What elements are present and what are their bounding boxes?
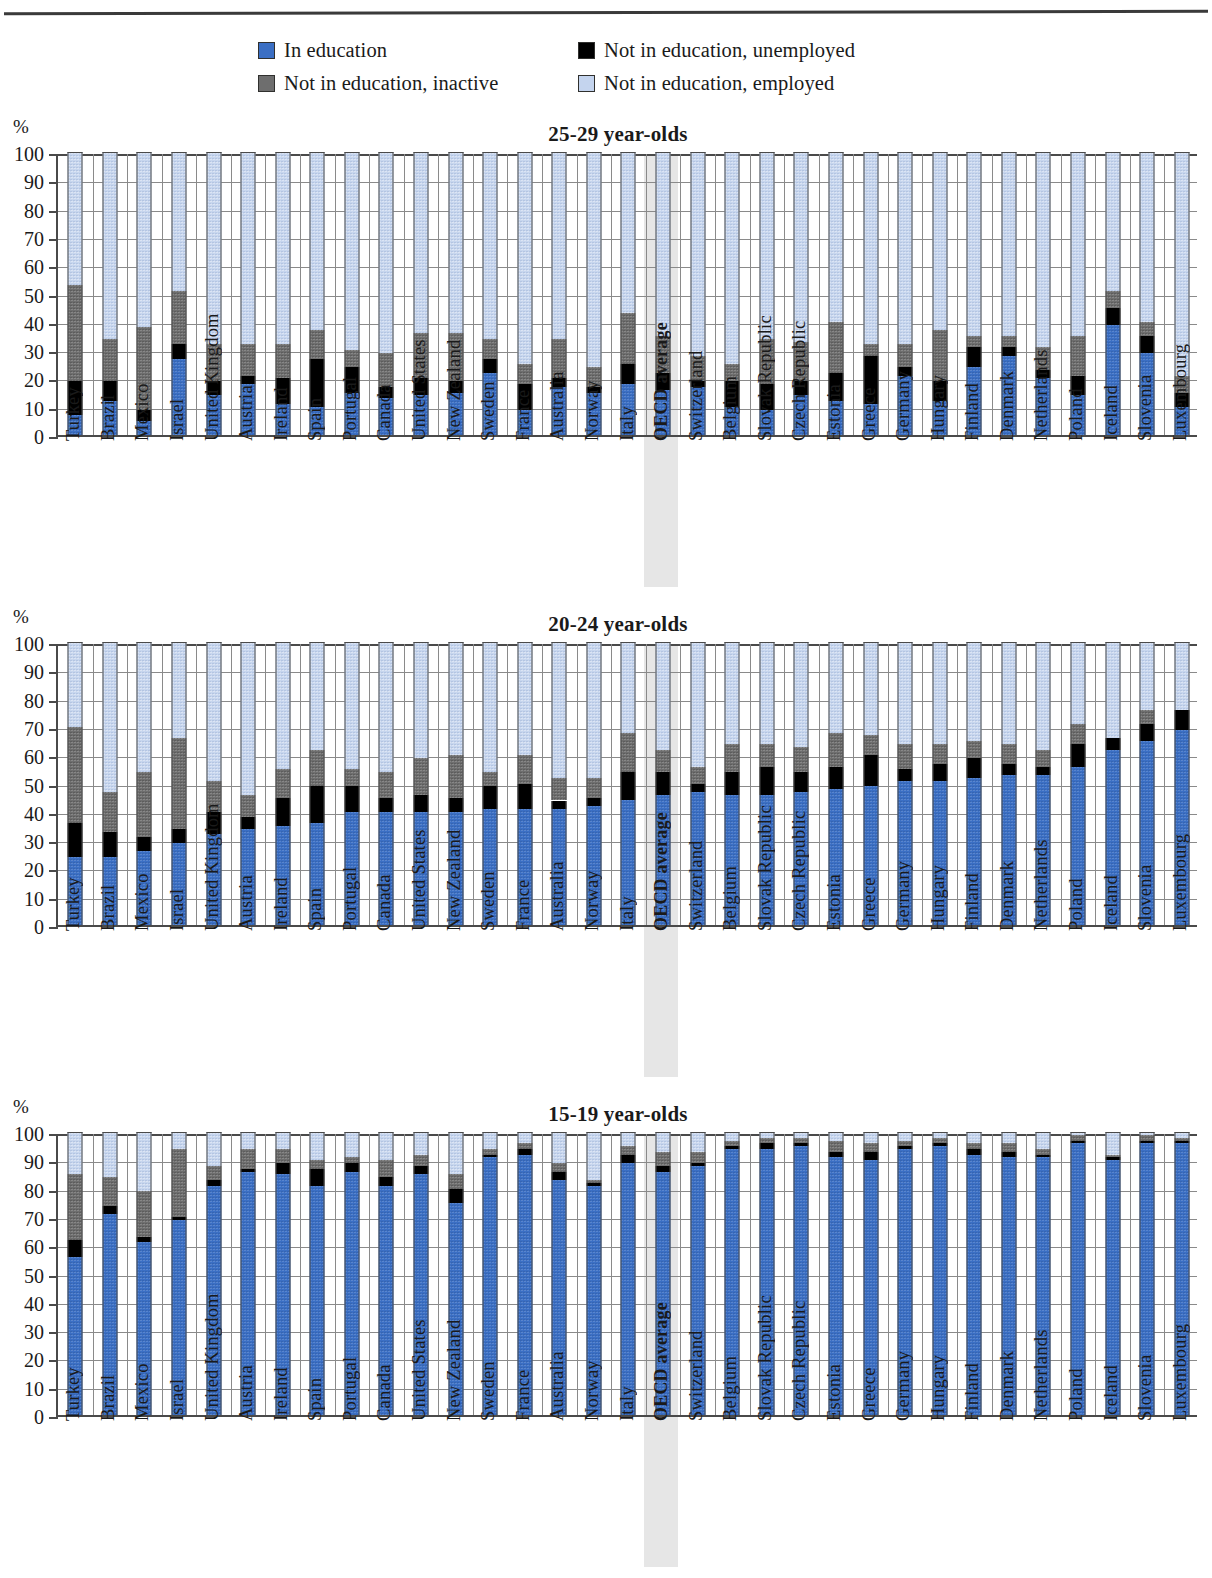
x-axis-tick-label-turkey: Turkey: [63, 1367, 84, 1421]
x-axis-tick-label-switzerland: Switzerland: [686, 350, 707, 441]
segment-inactive: [552, 778, 567, 801]
segment-employed: [344, 1132, 359, 1157]
chart-panel-20-24: %20-24 year-olds1009080706050403020100Tu…: [0, 604, 1212, 1084]
x-axis-tick-label-united-kingdom: United Kingdom: [202, 1293, 223, 1421]
stacked-bar[interactable]: [310, 154, 325, 435]
segment-employed: [621, 642, 636, 733]
segment-employed: [552, 152, 567, 339]
segment-employed: [932, 1132, 947, 1138]
segment-inactive: [863, 344, 878, 355]
segment-inactive: [1036, 750, 1051, 767]
segment-inactive: [172, 291, 187, 345]
segment-employed: [621, 1132, 636, 1146]
segment-inactive: [102, 792, 117, 832]
segment-employed: [1001, 152, 1016, 336]
segment-inactive: [621, 733, 636, 773]
chart-title: 20-24 year-olds: [0, 612, 1212, 637]
x-axis-tick-label-austria: Austria: [236, 1365, 257, 1421]
bar-slot[interactable]: [93, 644, 128, 925]
segment-unemployed: [759, 767, 774, 795]
y-axis-tick-label: 20: [24, 1349, 44, 1372]
chart-title-text: 25-29 year-olds: [548, 122, 687, 146]
bar-slot[interactable]: [611, 154, 646, 435]
segment-employed: [552, 642, 567, 778]
plot-area: [56, 154, 1197, 437]
segment-inactive: [275, 1149, 290, 1163]
x-axis-tick-label-finland: Finland: [962, 383, 983, 441]
bar-slot[interactable]: [300, 644, 335, 925]
segment-inactive: [483, 772, 498, 786]
x-axis-tick-label-france: France: [513, 1369, 534, 1421]
y-axis-tick-mark: [49, 701, 58, 703]
x-axis-tick-label-israel: Israel: [167, 399, 188, 441]
segment-employed: [483, 152, 498, 339]
x-axis-tick-label-united-kingdom: United Kingdom: [202, 803, 223, 931]
bar-slot[interactable]: [300, 1134, 335, 1415]
segment-employed: [759, 152, 774, 339]
bar-slot[interactable]: [162, 154, 197, 435]
segment-unemployed: [1001, 1152, 1016, 1158]
segment-inactive: [448, 1174, 463, 1188]
y-axis-tick-label: 50: [24, 774, 44, 797]
stacked-bar[interactable]: [621, 154, 636, 435]
stacked-bar[interactable]: [172, 1134, 187, 1415]
x-axis-tick-label-poland: Poland: [1066, 388, 1087, 441]
stacked-bar[interactable]: [621, 1134, 636, 1415]
x-axis-tick-label-norway: Norway: [582, 1360, 603, 1421]
bar-slot[interactable]: [162, 1134, 197, 1415]
segment-unemployed: [828, 1152, 843, 1158]
segment-employed: [102, 1132, 117, 1177]
segment-unemployed: [794, 1143, 809, 1146]
segment-inactive: [759, 744, 774, 767]
segment-employed: [690, 1132, 705, 1152]
y-axis-tick-label: 30: [24, 341, 44, 364]
bar-slot[interactable]: [611, 1134, 646, 1415]
x-axis-tick-label-portugal: Portugal: [340, 377, 361, 441]
bar-slot[interactable]: [93, 154, 128, 435]
y-axis-tick-label: 20: [24, 859, 44, 882]
bar-slot[interactable]: [300, 154, 335, 435]
stacked-bar[interactable]: [102, 1134, 117, 1415]
segment-unemployed: [552, 801, 567, 809]
x-axis-tick-label-canada: Canada: [374, 874, 395, 931]
segment-unemployed: [517, 784, 532, 809]
segment-employed: [102, 642, 117, 792]
segment-employed: [828, 152, 843, 322]
x-axis-tick-label-iceland: Iceland: [1101, 875, 1122, 931]
bar-slot[interactable]: [162, 644, 197, 925]
segment-inactive: [898, 344, 913, 367]
stacked-bar[interactable]: [102, 154, 117, 435]
stacked-bar[interactable]: [102, 644, 117, 925]
y-axis-tick-label: 60: [24, 1236, 44, 1259]
y-axis-tick-label: 60: [24, 256, 44, 279]
square-swatch-gray-icon: [258, 75, 275, 92]
segment-employed: [310, 152, 325, 330]
segment-unemployed: [863, 755, 878, 786]
segment-inactive: [586, 778, 601, 798]
x-axis-tick-label-iceland: Iceland: [1101, 1365, 1122, 1421]
y-axis-tick-mark: [49, 1360, 58, 1362]
segment-unemployed: [725, 772, 740, 795]
segment-employed: [967, 152, 982, 336]
bar-slot[interactable]: [93, 1134, 128, 1415]
segment-employed: [1070, 642, 1085, 724]
segment-inactive: [206, 1166, 221, 1180]
segment-employed: [172, 642, 187, 738]
segment-employed: [863, 152, 878, 344]
y-axis-tick-label: 80: [24, 1179, 44, 1202]
segment-unemployed: [656, 772, 671, 795]
segment-unemployed: [344, 1163, 359, 1171]
stacked-bar[interactable]: [310, 1134, 325, 1415]
bar-slot[interactable]: [611, 644, 646, 925]
segment-inactive: [1140, 1135, 1155, 1141]
segment-unemployed: [1140, 336, 1155, 353]
y-axis-tick-label: 100: [14, 1123, 44, 1146]
segment-unemployed: [1174, 710, 1189, 730]
stacked-bar[interactable]: [621, 644, 636, 925]
stacked-bar[interactable]: [172, 644, 187, 925]
bar-group: [58, 154, 1197, 435]
stacked-bar[interactable]: [172, 154, 187, 435]
x-axis-tick-label-slovenia: Slovenia: [1135, 375, 1156, 441]
segment-inactive: [241, 344, 256, 375]
stacked-bar[interactable]: [310, 644, 325, 925]
